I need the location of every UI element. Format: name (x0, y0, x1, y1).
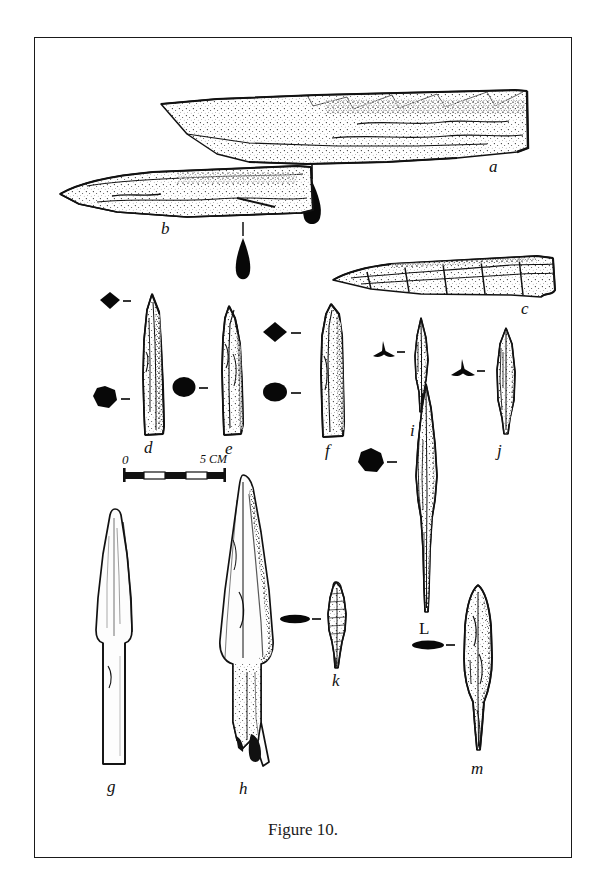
artifact-drawing-L: L (407, 382, 447, 618)
cross-section-f-lower (261, 378, 303, 406)
artifact-label-b: b (161, 220, 170, 237)
cross-section-j (449, 358, 487, 384)
scale-bar: 0 5 CM (122, 452, 227, 483)
cross-section-L (355, 446, 399, 476)
artifact-label-f: f (325, 442, 330, 459)
cross-section-f-upper (261, 320, 303, 346)
cross-section-d-upper (99, 290, 133, 312)
scale-bar-graphic (122, 467, 227, 483)
figure-caption: Figure 10. (35, 820, 571, 840)
artifact-label-g: g (107, 778, 116, 795)
artifact-label-j: j (497, 442, 502, 459)
artifact-drawing-c: c (331, 250, 563, 306)
artifact-label-L: L (419, 620, 429, 637)
figure-drawing-area: a b (35, 38, 571, 808)
artifact-drawing-k: k (321, 580, 353, 672)
artifact-drawing-b: b (57, 162, 323, 224)
artifact-drawing-d: d (133, 292, 173, 440)
artifact-drawing-f: f (311, 302, 353, 444)
artifact-label-m: m (471, 760, 483, 777)
scale-bar-max-label: 5 CM (200, 452, 227, 467)
artifact-drawing-j: j (491, 326, 521, 440)
artifact-label-k: k (332, 672, 340, 689)
artifact-label-c: c (521, 300, 529, 317)
cross-section-k (279, 610, 323, 628)
scale-bar-labels: 0 5 CM (122, 452, 227, 467)
artifact-drawing-h: h (203, 472, 283, 778)
cross-section-i (371, 340, 407, 364)
artifact-label-a: a (489, 158, 498, 175)
cross-section-e (171, 374, 211, 402)
artifact-drawing-e: e (213, 304, 253, 440)
cross-section-d-lower (91, 384, 133, 412)
artifact-drawing-m: m (453, 582, 503, 758)
cross-section-b (231, 222, 255, 284)
artifact-label-h: h (239, 780, 248, 797)
scale-bar-min-label: 0 (122, 452, 129, 468)
artifact-drawing-g: g (87, 506, 147, 774)
figure-plate: a b (34, 37, 572, 858)
cross-section-m (411, 636, 457, 654)
